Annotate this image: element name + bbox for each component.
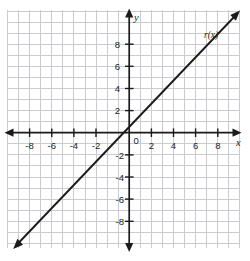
x-tick-label-neg8: -8	[25, 140, 33, 151]
origin-label: 0	[134, 135, 139, 146]
grid-lines	[8, 10, 240, 248]
x-tick-label-6: 6	[193, 140, 198, 151]
y-axis-label: y	[133, 12, 139, 23]
y-axis-top-arrow-icon	[125, 9, 133, 18]
y-tick-label-8: 8	[115, 39, 120, 50]
x-tick-label-4: 4	[171, 140, 176, 151]
y-axis-bottom-arrow-icon	[125, 243, 133, 252]
graph-canvas: -8 -6 -4 -2 2 4 6 8 8 6 4 2 -2 -4 -6 -8 …	[0, 0, 250, 261]
y-tick-label-2: 2	[115, 105, 120, 116]
function-label-r: r(x)	[204, 30, 218, 41]
y-tick-label-6: 6	[115, 61, 120, 72]
function-line-r	[13, 11, 240, 250]
y-tick-label-neg8: -8	[116, 216, 124, 227]
x-tick-label-2: 2	[149, 140, 154, 151]
x-tick-label-neg4: -4	[70, 140, 78, 151]
coordinate-plane-figure: -8 -6 -4 -2 2 4 6 8 8 6 4 2 -2 -4 -6 -8 …	[0, 0, 250, 261]
y-tick-label-4: 4	[115, 83, 120, 94]
x-axis-left-arrow-icon	[5, 129, 14, 137]
x-tick-label-neg2: -2	[92, 140, 100, 151]
x-tick-label-neg6: -6	[48, 140, 56, 151]
x-axis-label: x	[235, 137, 241, 148]
y-tick-label-neg6: -6	[116, 194, 124, 205]
y-tick-label-neg2: -2	[116, 150, 124, 161]
y-tick-label-neg4: -4	[116, 172, 124, 183]
x-tick-label-8: 8	[215, 140, 220, 151]
